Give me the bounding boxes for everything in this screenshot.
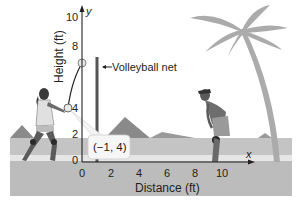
x-tick-0: 0 [79, 167, 85, 179]
y-tick-8: 8 [72, 40, 78, 52]
net-pointer-arrow [102, 65, 106, 69]
x-tick-4: 4 [136, 167, 142, 179]
x-tick-2: 2 [108, 167, 114, 179]
x-tick-8: 8 [192, 167, 198, 179]
volleyball-chart: Volleyball net (−1, 4) y x 10 8 4 2 0 0 … [0, 0, 302, 208]
mountain-far [258, 133, 272, 138]
mountain-left [10, 125, 34, 138]
mountain-right [150, 132, 195, 138]
x-axis-letter: x [245, 148, 252, 160]
net-label: Volleyball net [112, 61, 177, 73]
y-tick-10: 10 [66, 11, 78, 23]
x-axis-title: Distance (ft) [135, 181, 200, 195]
y-axis-arrow [80, 5, 85, 12]
x-tick-6: 6 [164, 167, 170, 179]
x-tick-10: 10 [216, 167, 228, 179]
y-tick-2: 2 [72, 128, 78, 140]
point-label: (−1, 4) [93, 141, 127, 153]
y-axis-letter: y [85, 5, 93, 17]
y-axis-title: Height (ft) [52, 30, 66, 83]
y-tick-4: 4 [72, 102, 78, 114]
y-tick-0: 0 [72, 154, 78, 166]
